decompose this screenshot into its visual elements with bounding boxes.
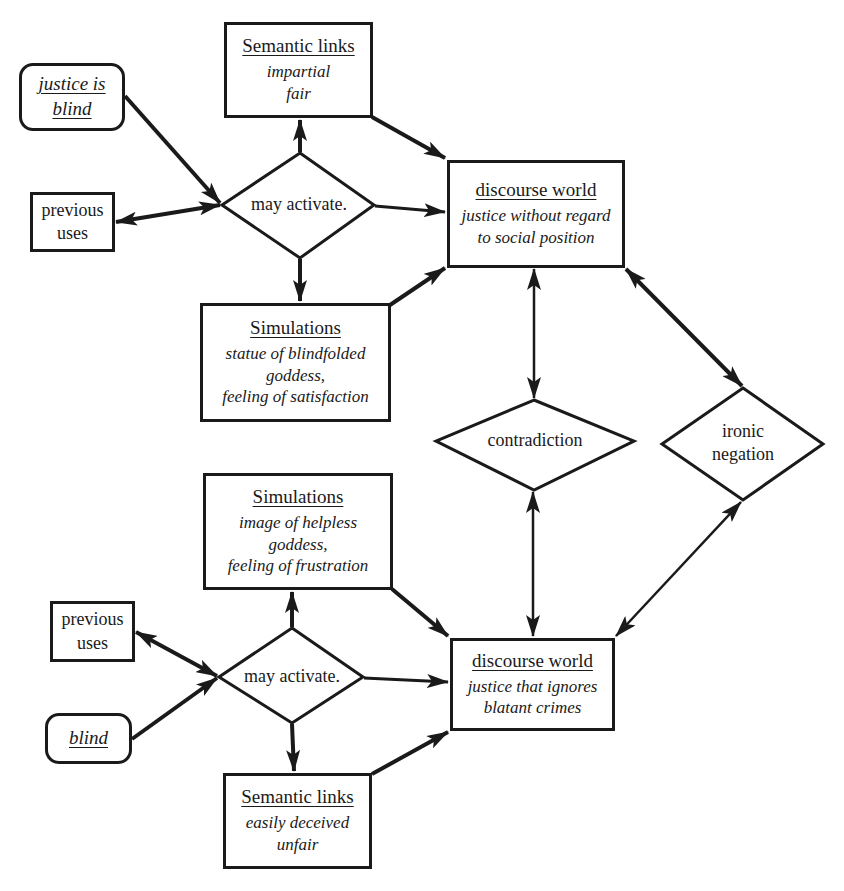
discourse-world-line: justice without regard (462, 205, 611, 227)
semantic-link-item: impartial (267, 61, 330, 83)
edge-ironic-discourse-bottom (616, 502, 741, 636)
previous-uses-line-2: uses (57, 222, 88, 245)
simulation-item: goddess, (268, 534, 327, 556)
previous-uses-box-bottom: previous uses (50, 601, 135, 662)
discourse-world-title: discourse world (472, 650, 593, 673)
previous-uses-box-top: previous uses (30, 192, 115, 252)
ironic-negation-line-1: ironic (722, 420, 764, 443)
edge-discourse-ironic-top (626, 269, 742, 386)
decision-label-top: may activate. (226, 190, 372, 220)
edge-decision-discourse-bottom (364, 678, 448, 682)
semantic-link-item: fair (286, 83, 311, 105)
edge-decision-discourse-top (375, 206, 445, 212)
simulations-title: Simulations (253, 486, 344, 509)
simulation-item: statue of blindfolded (226, 343, 366, 365)
edge-phrase-to-decision-bottom (132, 678, 217, 739)
discourse-world-line: blatant crimes (484, 697, 582, 719)
semantic-links-box-bottom: Semantic links easily deceived unfair (223, 773, 372, 869)
discourse-world-box-bottom: discourse world justice that ignores bla… (450, 638, 615, 731)
previous-uses-line-2: uses (77, 632, 108, 655)
discourse-world-line: justice that ignores (468, 676, 598, 698)
input-phrase-blind: blind (45, 713, 132, 764)
edge-semlinks-discourse-bottom (372, 732, 448, 774)
decision-text: may activate. (251, 193, 347, 216)
edge-prevuses-decision-bottom (136, 632, 217, 676)
contradiction-label: contradiction (450, 426, 620, 456)
phrase-line-1: justice is (38, 72, 105, 97)
decision-label-bottom: may activate. (222, 662, 362, 692)
edge-phrase-to-decision-top (125, 96, 220, 203)
simulations-title: Simulations (250, 317, 341, 340)
simulations-box-top: Simulations statue of blindfolded goddes… (200, 303, 391, 422)
contradiction-text: contradiction (488, 429, 583, 452)
edge-sims-discourse-bottom (392, 589, 448, 636)
simulations-box-bottom: Simulations image of helpless goddess, f… (203, 473, 393, 590)
discourse-world-title: discourse world (476, 179, 597, 202)
edge-prevuses-decision-top (116, 205, 220, 222)
input-phrase-justice-is-blind: justice is blind (19, 63, 125, 131)
simulation-item: goddess, (266, 365, 325, 387)
semantic-link-item: unfair (277, 834, 319, 856)
edge-sims-discourse-top (390, 268, 445, 305)
ironic-negation-label: ironic negation (683, 414, 803, 472)
phrase-text: blind (69, 726, 108, 751)
simulation-item: feeling of satisfaction (222, 386, 368, 408)
simulation-item: feeling of frustration (228, 555, 369, 577)
semantic-links-title: Semantic links (242, 35, 354, 58)
simulation-item: image of helpless (239, 512, 357, 534)
semantic-links-title: Semantic links (241, 786, 353, 809)
previous-uses-line-1: previous (62, 608, 124, 631)
decision-text: may activate. (244, 665, 340, 688)
edge-semlinks-discourse-top (372, 117, 445, 158)
previous-uses-line-1: previous (42, 199, 104, 222)
discourse-world-box-top: discourse world justice without regard t… (447, 160, 625, 268)
semantic-links-box-top: Semantic links impartial fair (224, 22, 373, 118)
edge-decision-semlinks-bottom (292, 724, 294, 771)
phrase-line-2: blind (52, 97, 91, 122)
semantic-link-item: easily deceived (246, 812, 349, 834)
ironic-negation-line-2: negation (712, 443, 774, 466)
discourse-world-line: to social position (477, 227, 594, 249)
